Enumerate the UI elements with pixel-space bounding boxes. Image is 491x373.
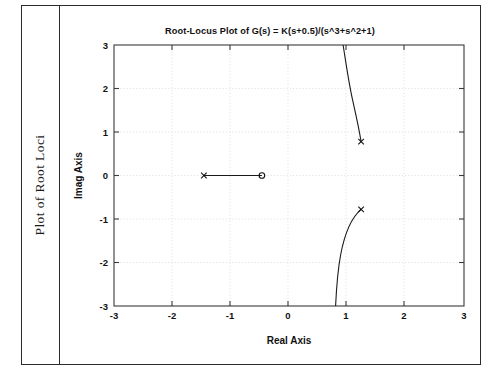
x-tick-label: 2 — [401, 310, 406, 321]
x-tick-label: 0 — [285, 310, 290, 321]
y-tick-label: 3 — [103, 40, 108, 51]
x-tick-label: -1 — [226, 310, 235, 321]
x-axis-title: Real Axis — [267, 335, 312, 346]
root-locus-chart: -3 -2 -1 0 1 2 3 3 2 1 0 -1 -2 -3 Real A… — [60, 6, 480, 364]
x-tick-labels: -3 -2 -1 0 1 2 3 — [110, 310, 467, 321]
figure-caption-label: Plot of Root Loci — [33, 135, 49, 236]
plot-background — [114, 45, 464, 306]
y-tick-label: -1 — [100, 214, 109, 225]
y-tick-labels: 3 2 1 0 -1 -2 -3 — [100, 40, 109, 312]
y-tick-label: 1 — [103, 127, 109, 138]
y-tick-label: 0 — [103, 170, 108, 181]
y-tick-label: 2 — [103, 83, 108, 94]
figure-caption-cell: Plot of Root Loci — [22, 6, 60, 364]
x-tick-label: -2 — [168, 310, 176, 321]
y-tick-label: -3 — [100, 301, 108, 312]
x-tick-label: 3 — [461, 310, 466, 321]
x-tick-label: 1 — [343, 310, 349, 321]
plot-cell: Root-Locus Plot of G(s) = K(s+0.5)/(s^3+… — [60, 6, 480, 364]
y-axis-title: Imag Axis — [73, 152, 84, 199]
figure-frame: Plot of Root Loci Root-Locus Plot of G(s… — [21, 5, 481, 365]
x-tick-label: -3 — [110, 310, 118, 321]
y-tick-label: -2 — [100, 257, 108, 268]
